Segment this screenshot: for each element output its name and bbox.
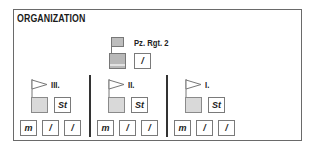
- regiment-flag-icon: [111, 37, 124, 47]
- battalion-staff-box: St: [208, 97, 225, 113]
- regiment-staff-box: /: [134, 53, 151, 69]
- company-label: /: [225, 123, 228, 133]
- company-label: m: [178, 123, 186, 133]
- company-label: /: [148, 123, 151, 133]
- staff-label: St: [212, 100, 221, 110]
- battalion-label: III.: [51, 80, 60, 90]
- regiment-label: Pz. Rgt. 2: [134, 38, 168, 48]
- company-box: m: [174, 120, 191, 136]
- company-box: /: [119, 120, 136, 136]
- regiment-hq-box: [109, 53, 126, 69]
- regiment-flag-pole: [111, 37, 112, 54]
- company-label: /: [71, 123, 74, 133]
- battalion-staff-box: St: [131, 97, 148, 113]
- divider-1: [89, 75, 91, 137]
- battalion-hq-box: [185, 97, 202, 113]
- battalion-hq-box: [108, 97, 125, 113]
- divider-2: [166, 75, 168, 137]
- staff-label: St: [58, 100, 67, 110]
- battalion-label: I.: [205, 80, 209, 90]
- company-label: m: [101, 123, 109, 133]
- company-box: /: [196, 120, 213, 136]
- company-label: /: [203, 123, 206, 133]
- battalion-label: II.: [128, 80, 134, 90]
- company-box: /: [64, 120, 81, 136]
- company-box: /: [42, 120, 59, 136]
- staff-label: St: [135, 100, 144, 110]
- battalion-pennant-icon: [31, 79, 48, 97]
- panel-title: ORGANIZATION: [17, 13, 85, 24]
- battalion-pennant-icon: [108, 79, 125, 97]
- company-box: /: [141, 120, 158, 136]
- company-label: /: [126, 123, 129, 133]
- company-box: m: [20, 120, 37, 136]
- battalion-pennant-icon: [185, 79, 202, 97]
- company-box: /: [218, 120, 235, 136]
- battalion-staff-box: St: [54, 97, 71, 113]
- company-box: m: [97, 120, 114, 136]
- company-label: /: [49, 123, 52, 133]
- regiment-staff-label: /: [141, 56, 144, 66]
- battalion-hq-box: [31, 97, 48, 113]
- company-label: m: [24, 123, 32, 133]
